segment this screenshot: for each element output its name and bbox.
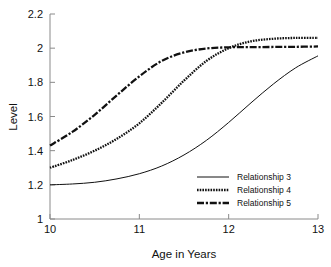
y-tick-label: 2 (37, 42, 43, 54)
x-axis-ticks: 10111213 (44, 214, 324, 235)
x-tick-label: 11 (134, 223, 145, 235)
x-tick-label: 13 (312, 223, 324, 235)
y-tick-label: 1.4 (28, 145, 43, 157)
x-axis-title: Age in Years (152, 248, 217, 260)
series-line-1 (50, 56, 318, 185)
y-axis-ticks: 11.21.41.61.822.2 (28, 8, 55, 225)
y-tick-label: 1.6 (28, 111, 43, 123)
y-tick-label: 1.8 (28, 76, 43, 88)
y-tick-label: 2.2 (28, 8, 43, 20)
x-tick-label: 10 (44, 223, 56, 235)
series-group (50, 38, 318, 185)
legend-label-1: Relationship 3 (237, 172, 291, 182)
line-chart: 11.21.41.61.822.2 10111213 Level Age in … (0, 0, 331, 267)
y-tick-label: 1 (37, 213, 43, 225)
chart-legend: Relationship 3Relationship 4Relationship… (197, 172, 291, 208)
x-tick-label: 12 (223, 223, 235, 235)
chart-container: 11.21.41.61.822.2 10111213 Level Age in … (0, 0, 331, 267)
y-axis-title: Level (7, 103, 19, 131)
y-tick-label: 1.2 (28, 179, 43, 191)
series-line-3 (50, 46, 318, 145)
legend-label-2: Relationship 4 (237, 185, 291, 195)
legend-label-3: Relationship 5 (237, 198, 291, 208)
series-line-2 (50, 38, 318, 168)
